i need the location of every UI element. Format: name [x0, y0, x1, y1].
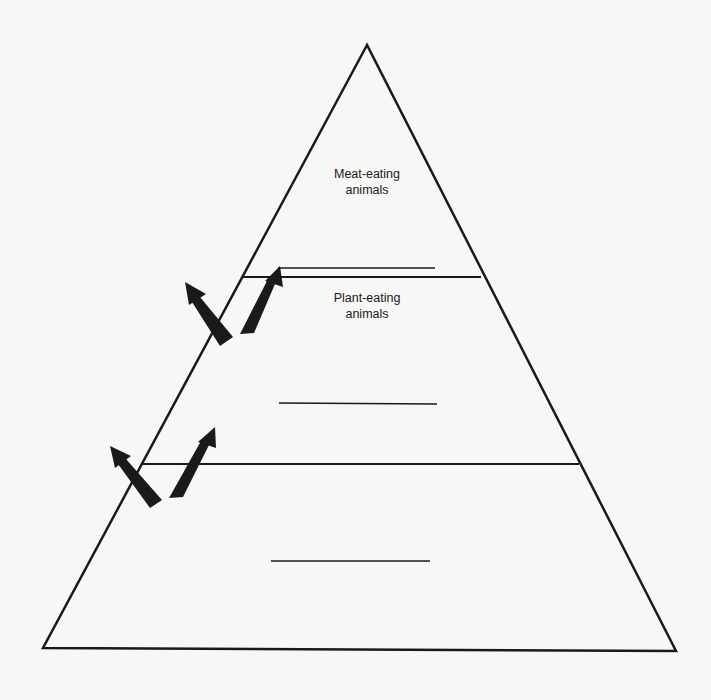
tier-label-top-line1: Meat-eating	[287, 166, 447, 182]
pyramid-diagram	[0, 0, 711, 700]
tier-label-top-line2: animals	[287, 182, 447, 198]
pyramid-outline	[43, 45, 676, 651]
arrow-up-left-icon	[110, 446, 162, 508]
tier-label-middle-line1: Plant-eating	[287, 290, 447, 306]
tier-label-middle: Plant-eating animals	[287, 290, 447, 322]
tier-label-top: Meat-eating animals	[287, 166, 447, 198]
tier-label-middle-line2: animals	[287, 306, 447, 322]
arrow-up-right-icon	[169, 427, 216, 498]
answer-line-middle[interactable]	[279, 403, 437, 404]
arrow-up-left-icon	[185, 282, 233, 346]
